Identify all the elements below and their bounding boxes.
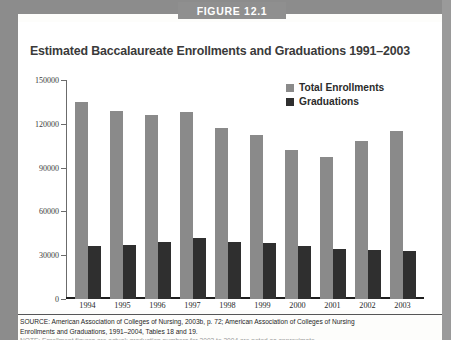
- figure-number-banner: FIGURE 12.1: [178, 2, 286, 19]
- bar-total-enrollments-1996: [145, 115, 158, 299]
- bar-graduations-1999: [263, 243, 276, 299]
- figure-content: FIGURE 12.1 Estimated Baccalaureate Enro…: [18, 14, 442, 340]
- x-axis-labels: 1994199519961997199819992000200120022003: [66, 301, 424, 310]
- bar-graduations-2003: [403, 251, 416, 299]
- y-tick-label-150000: 150000: [35, 76, 59, 85]
- bar-group-2001: [315, 80, 350, 299]
- y-tick-label-90000: 90000: [39, 163, 59, 172]
- bar-groups: [66, 80, 424, 299]
- x-axis-label-2003: 2003: [385, 301, 420, 310]
- chart-card: Estimated Baccalaureate Enrollments and …: [18, 22, 442, 310]
- bar-graduations-1998: [228, 242, 241, 299]
- bar-total-enrollments-2002: [355, 141, 368, 299]
- plot-area: 0300006000090000120000150000 19941995199…: [66, 80, 424, 298]
- figure-number-label: FIGURE 12.1: [197, 5, 268, 17]
- x-axis-label-1996: 1996: [140, 301, 175, 310]
- bar-group-1997: [175, 80, 210, 299]
- x-axis-label-2000: 2000: [280, 301, 315, 310]
- bar-group-2002: [350, 80, 385, 299]
- x-axis-label-2001: 2001: [315, 301, 350, 310]
- y-tick-label-60000: 60000: [39, 207, 59, 216]
- scan-edge-left: [0, 0, 18, 340]
- x-axis-label-2002: 2002: [350, 301, 385, 310]
- bar-total-enrollments-1995: [110, 111, 123, 299]
- bar-total-enrollments-1997: [180, 112, 193, 299]
- bar-graduations-2000: [298, 246, 311, 299]
- bar-total-enrollments-2000: [285, 150, 298, 299]
- x-axis-label-1999: 1999: [245, 301, 280, 310]
- bar-total-enrollments-1999: [250, 135, 263, 299]
- bar-graduations-1996: [158, 242, 171, 299]
- x-axis-label-1998: 1998: [210, 301, 245, 310]
- bar-graduations-1994: [88, 246, 101, 299]
- bar-graduations-2001: [333, 249, 346, 299]
- source-divider: [18, 314, 442, 315]
- bar-total-enrollments-2001: [320, 157, 333, 299]
- y-tick-label-120000: 120000: [35, 119, 59, 128]
- bar-group-2000: [280, 80, 315, 299]
- source-note: SOURCE: American Association of Colleges…: [20, 317, 440, 340]
- source-note-line-3: NOTE: Enrollment figures are actual; gra…: [20, 336, 440, 340]
- x-axis-label-1997: 1997: [175, 301, 210, 310]
- bar-total-enrollments-1998: [215, 128, 228, 299]
- source-note-line-1: SOURCE: American Association of Colleges…: [20, 317, 440, 327]
- bar-group-1998: [210, 80, 245, 299]
- source-note-line-2: Enrollments and Graduations, 1991–2004, …: [20, 327, 440, 337]
- x-axis-label-1994: 1994: [70, 301, 105, 310]
- bar-graduations-1997: [193, 238, 206, 299]
- bar-total-enrollments-1994: [75, 102, 88, 299]
- figure-page: FIGURE 12.1 Estimated Baccalaureate Enro…: [0, 0, 451, 340]
- bar-graduations-1995: [123, 245, 136, 299]
- bar-group-1994: [70, 80, 105, 299]
- y-tick-label-30000: 30000: [39, 251, 59, 260]
- scan-edge-right: [442, 0, 451, 340]
- bar-group-1996: [140, 80, 175, 299]
- y-tick-mark-0: [61, 299, 66, 300]
- y-tick-label-0: 0: [55, 295, 59, 304]
- bar-group-2003: [385, 80, 420, 299]
- bar-group-1999: [245, 80, 280, 299]
- x-axis-label-1995: 1995: [105, 301, 140, 310]
- chart-title: Estimated Baccalaureate Enrollments and …: [30, 44, 410, 58]
- bar-total-enrollments-2003: [390, 131, 403, 299]
- bar-group-1995: [105, 80, 140, 299]
- bar-graduations-2002: [368, 250, 381, 299]
